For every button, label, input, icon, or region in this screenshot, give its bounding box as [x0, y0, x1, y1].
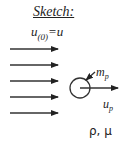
mass-flux-arrow	[86, 72, 95, 80]
particle-velocity-label: up	[103, 97, 113, 113]
particle-mass-label: mp	[96, 65, 109, 81]
fluid-properties-label: ρ, μ	[89, 124, 112, 138]
flow-arrows	[10, 49, 58, 113]
